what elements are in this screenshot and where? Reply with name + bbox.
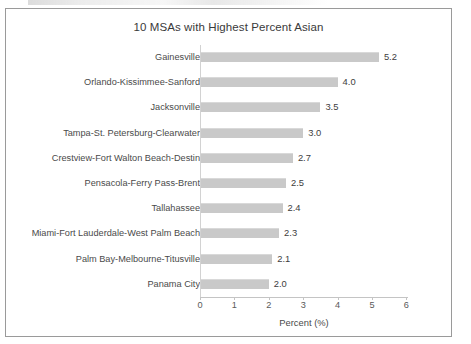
category-label: Orlando-Kissimmee-Sanford bbox=[0, 75, 200, 89]
bar-track bbox=[200, 52, 379, 62]
bar bbox=[200, 178, 286, 188]
bar-track bbox=[200, 228, 279, 238]
bar-value-label: 2.1 bbox=[277, 252, 290, 266]
bar-row: Palm Bay-Melbourne-Titusville2.1 bbox=[6, 252, 453, 266]
x-axis-title: Percent (%) bbox=[200, 317, 408, 328]
bar-value-label: 2.3 bbox=[284, 226, 297, 240]
bar-value-label: 3.5 bbox=[325, 100, 338, 114]
y-axis-line bbox=[200, 45, 201, 298]
category-label: Palm Bay-Melbourne-Titusville bbox=[0, 252, 200, 266]
bar-value-label: 2.0 bbox=[274, 277, 287, 291]
bar-value-label: 3.0 bbox=[308, 126, 321, 140]
bar-track bbox=[200, 128, 303, 138]
bar bbox=[200, 77, 338, 87]
bar-track bbox=[200, 279, 269, 289]
bar bbox=[200, 128, 303, 138]
bar bbox=[200, 153, 293, 163]
bar-row: Jacksonville3.5 bbox=[6, 100, 453, 114]
x-tick-label: 3 bbox=[301, 300, 306, 310]
chart-title: 10 MSAs with Highest Percent Asian bbox=[6, 21, 451, 33]
bar-value-label: 5.2 bbox=[384, 50, 397, 64]
category-label: Miami-Fort Lauderdale-West Palm Beach bbox=[0, 226, 200, 240]
category-label: Panama City bbox=[0, 277, 200, 291]
bar bbox=[200, 203, 283, 213]
bar-value-label: 4.0 bbox=[343, 75, 356, 89]
category-label: Crestview-Fort Walton Beach-Destin bbox=[0, 151, 200, 165]
bar bbox=[200, 279, 269, 289]
bar bbox=[200, 52, 379, 62]
bar-value-label: 2.5 bbox=[291, 176, 304, 190]
bar bbox=[200, 254, 272, 264]
bar-track bbox=[200, 77, 338, 87]
category-label: Pensacola-Ferry Pass-Brent bbox=[0, 176, 200, 190]
x-tick-label: 6 bbox=[404, 300, 409, 310]
x-tick-label: 1 bbox=[232, 300, 237, 310]
category-label: Tallahassee bbox=[0, 201, 200, 215]
category-label: Jacksonville bbox=[0, 100, 200, 114]
bar-row: Tallahassee2.4 bbox=[6, 201, 453, 215]
bar-row: Gainesville5.2 bbox=[6, 50, 453, 64]
bar-row: Tampa-St. Petersburg-Clearwater3.0 bbox=[6, 126, 453, 140]
bar-track bbox=[200, 254, 272, 264]
bar bbox=[200, 102, 320, 112]
bar-row: Panama City2.0 bbox=[6, 277, 453, 291]
x-tick-label: 4 bbox=[335, 300, 340, 310]
x-tick-label: 5 bbox=[369, 300, 374, 310]
bar-row: Crestview-Fort Walton Beach-Destin2.7 bbox=[6, 151, 453, 165]
plot-area: Gainesville5.2Orlando-Kissimmee-Sanford4… bbox=[6, 45, 453, 297]
chart-screenshot: 10 MSAs with Highest Percent Asian Gaine… bbox=[0, 0, 471, 344]
bar-value-label: 2.4 bbox=[288, 201, 301, 215]
bar-value-label: 2.7 bbox=[298, 151, 311, 165]
bar-track bbox=[200, 203, 283, 213]
bar-row: Pensacola-Ferry Pass-Brent2.5 bbox=[6, 176, 453, 190]
bar-row: Orlando-Kissimmee-Sanford4.0 bbox=[6, 75, 453, 89]
bar-track bbox=[200, 102, 320, 112]
bar bbox=[200, 228, 279, 238]
bar-track bbox=[200, 153, 293, 163]
category-label: Tampa-St. Petersburg-Clearwater bbox=[0, 126, 200, 140]
scan-artifact-strip bbox=[28, 0, 328, 5]
x-tick-label: 2 bbox=[266, 300, 271, 310]
chart-frame: 10 MSAs with Highest Percent Asian Gaine… bbox=[5, 8, 452, 337]
category-label: Gainesville bbox=[0, 50, 200, 64]
bar-row: Miami-Fort Lauderdale-West Palm Beach2.3 bbox=[6, 226, 453, 240]
x-tick-label: 0 bbox=[197, 300, 202, 310]
bar-track bbox=[200, 178, 286, 188]
